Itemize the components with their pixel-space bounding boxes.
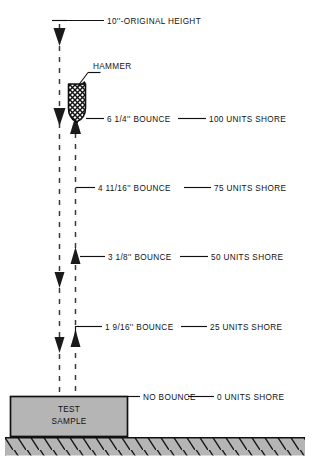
hammer-shape — [69, 84, 86, 123]
shore-label-75: 75 UNITS SHORE — [214, 184, 286, 193]
rebound-arrow-mid — [71, 247, 81, 264]
drop-arrow-upper-mid — [54, 108, 66, 126]
bounce-label-50: 3 1/8'' BOUNCE — [108, 253, 172, 262]
shore-label-100: 100 UNITS SHORE — [209, 115, 286, 124]
hammer-label: HAMMER — [93, 62, 132, 71]
shore-label-0: 0 UNITS SHORE — [217, 393, 285, 402]
drop-arrow-top — [54, 28, 66, 46]
drop-arrow-lower-mid — [55, 272, 65, 288]
test-sample-label-line2: SAMPLE — [51, 417, 86, 426]
hammer-leader-line — [78, 73, 101, 87]
bounce-label-25: 1 9/16'' BOUNCE — [105, 323, 174, 332]
bounce-label-75: 4 11/16'' BOUNCE — [98, 184, 171, 193]
shore-hardness-diagram: 10''-ORIGINAL HEIGHT — [0, 0, 328, 471]
bounce-label-0: NO BOUNCE — [143, 393, 196, 402]
shore-label-50: 50 UNITS SHORE — [211, 253, 283, 262]
diagram-canvas: 10''-ORIGINAL HEIGHT — [0, 0, 328, 471]
bounce-label-100: 6 1/4'' BOUNCE — [107, 115, 171, 124]
shore-label-25: 25 UNITS SHORE — [210, 323, 282, 332]
original-height-label: 10''-ORIGINAL HEIGHT — [107, 17, 201, 26]
ground-hatched-band — [5, 438, 305, 456]
test-sample-label-line1: TEST — [58, 405, 80, 414]
drop-arrow-bottom — [55, 337, 65, 353]
